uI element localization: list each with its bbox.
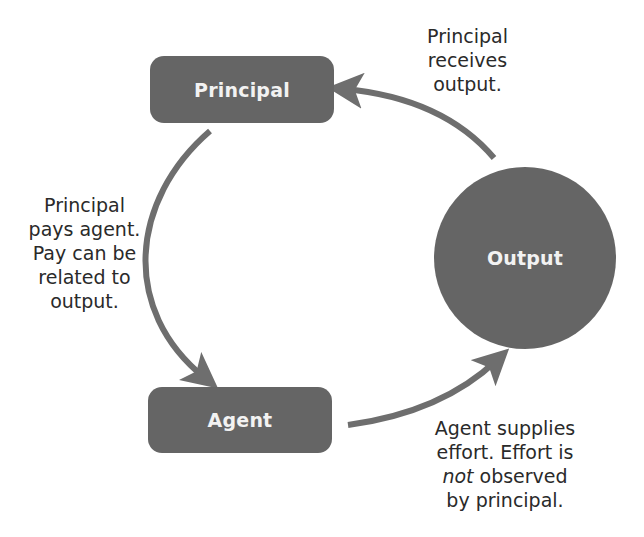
label-line: related to — [22, 265, 147, 289]
principal-node-label: Principal — [194, 79, 290, 101]
principal-node: Principal — [150, 56, 334, 123]
label-agent-supplies-effort: Agent supplies effort. Effort is not obs… — [425, 416, 585, 512]
label-line: pays agent. — [22, 217, 147, 241]
arrow-principal-to-agent — [145, 131, 210, 378]
label-line: Agent supplies — [425, 416, 585, 440]
label-line: output. — [22, 289, 147, 313]
agent-node-label: Agent — [208, 409, 273, 431]
label-line: Pay can be — [22, 241, 147, 265]
output-node: Output — [434, 167, 616, 349]
label-line: receives — [405, 48, 530, 72]
arrow-output-to-principal — [344, 89, 494, 158]
label-line: Principal — [405, 24, 530, 48]
label-line: Principal — [22, 193, 147, 217]
label-fragment: observed — [474, 465, 568, 487]
label-line: output. — [405, 72, 530, 96]
emphasis-not: not — [442, 465, 473, 487]
label-line: effort. Effort is — [425, 440, 585, 464]
label-line: by principal. — [425, 488, 585, 512]
principal-agent-diagram: Principal Output Agent Principal receive… — [0, 0, 644, 537]
agent-node: Agent — [148, 387, 332, 453]
label-principal-pays-agent: Principal pays agent. Pay can be related… — [22, 193, 147, 313]
label-line: not observed — [425, 464, 585, 488]
label-principal-receives-output: Principal receives output. — [405, 24, 530, 96]
output-node-label: Output — [487, 247, 563, 269]
